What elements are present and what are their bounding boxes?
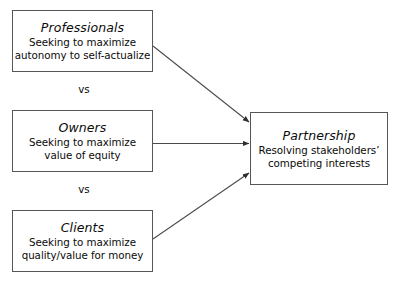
diagram-canvas: Professionals Seeking to maximize autono… xyxy=(0,0,397,289)
node-professionals-title: Professionals xyxy=(41,20,124,35)
node-professionals-description: Seeking to maximize autonomy to self-act… xyxy=(15,36,150,61)
node-owners-description: Seeking to maximize value of equity xyxy=(29,136,136,161)
node-partnership-title: Partnership xyxy=(283,128,356,143)
separator-label-owners-clients: vs xyxy=(64,183,104,195)
node-professionals[interactable]: Professionals Seeking to maximize autono… xyxy=(12,10,153,72)
separator-label-professionals-owners: vs xyxy=(64,83,104,95)
node-owners[interactable]: Owners Seeking to maximize value of equi… xyxy=(12,110,153,172)
node-partnership[interactable]: Partnership Resolving stakeholders’ comp… xyxy=(250,112,388,185)
node-clients-title: Clients xyxy=(61,220,104,235)
connector-professionals-to-partnership xyxy=(153,46,249,122)
node-clients-description: Seeking to maximize quality/value for mo… xyxy=(22,236,144,261)
node-owners-title: Owners xyxy=(59,120,107,135)
connector-clients-to-partnership xyxy=(153,173,249,239)
node-partnership-description: Resolving stakeholders’ competing intere… xyxy=(259,144,380,169)
node-clients[interactable]: Clients Seeking to maximize quality/valu… xyxy=(12,210,153,272)
